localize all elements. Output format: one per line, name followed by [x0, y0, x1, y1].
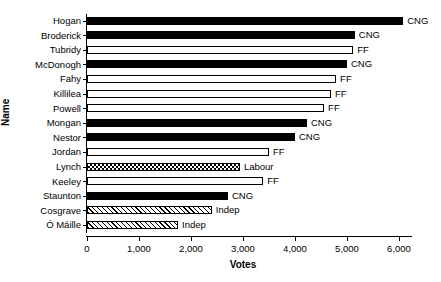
x-axis-tick: [399, 237, 400, 241]
bar-value-label: FF: [267, 175, 279, 186]
bar: [87, 119, 307, 127]
bar-value-label: Indep: [182, 219, 206, 230]
category-label: Fahy: [60, 73, 81, 84]
x-axis-tick-label: 3,000: [231, 243, 255, 254]
bar: [87, 192, 228, 200]
category-label: Keeley: [52, 176, 81, 187]
category-label: Staunton: [43, 190, 81, 201]
bar: [87, 177, 263, 185]
bar: [87, 221, 178, 229]
bar-row: JordanFF: [87, 145, 399, 160]
category-label: McDonogh: [35, 59, 81, 70]
bar-row: MonganCNG: [87, 116, 399, 131]
category-label: Cosgrave: [40, 205, 81, 216]
bar-value-label: FF: [328, 102, 340, 113]
bar-row: McDonoghCNG: [87, 58, 399, 73]
bar: [87, 46, 353, 54]
bar-value-label: CNG: [359, 29, 380, 40]
x-axis-tick-label: 2,000: [179, 243, 203, 254]
plot-area: HoganCNGBroderickCNGTubridyFFMcDonoghCNG…: [87, 14, 399, 233]
category-label: Mongan: [47, 117, 81, 128]
bar-row: KillileaFF: [87, 87, 399, 102]
x-axis-tick: [191, 237, 192, 241]
bar-row: TubridyFF: [87, 43, 399, 58]
bar: [87, 31, 355, 39]
category-label: Ó Máille: [46, 219, 81, 230]
x-axis-tick: [347, 237, 348, 241]
bar-value-label: FF: [340, 73, 352, 84]
bar-chart: Name Votes HoganCNGBroderickCNGTubridyFF…: [0, 0, 441, 282]
category-label: Nestor: [53, 132, 81, 143]
y-axis-title: Name: [0, 104, 11, 126]
x-axis-tick: [243, 237, 244, 241]
category-label: Tubridy: [50, 44, 81, 55]
category-label: Hogan: [53, 15, 81, 26]
bar: [87, 104, 324, 112]
bar-value-label: FF: [335, 88, 347, 99]
bar: [87, 75, 336, 83]
bar-value-label: CNG: [299, 131, 320, 142]
x-axis-tick-label: 6,000: [387, 243, 411, 254]
x-axis-tick: [87, 237, 88, 241]
bar-row: KeeleyFF: [87, 175, 399, 190]
x-axis-line: [86, 236, 412, 237]
x-axis-tick: [295, 237, 296, 241]
x-axis-title: Votes: [87, 259, 399, 270]
bar: [87, 148, 269, 156]
bar-row: CosgraveIndep: [87, 204, 399, 219]
category-label: Jordan: [52, 146, 81, 157]
bar: [87, 163, 240, 171]
bar-value-label: CNG: [351, 58, 372, 69]
category-label: Powell: [53, 103, 81, 114]
bar-row: StauntonCNG: [87, 189, 399, 204]
bar-value-label: FF: [357, 44, 369, 55]
bar-row: HoganCNG: [87, 14, 399, 29]
bar-row: BroderickCNG: [87, 29, 399, 44]
x-axis-tick-label: 4,000: [283, 243, 307, 254]
x-axis-tick: [139, 237, 140, 241]
category-label: Lynch: [56, 161, 81, 172]
bar-value-label: Indep: [216, 204, 240, 215]
bar-row: Ó MáilleIndep: [87, 218, 399, 233]
bar-row: NestorCNG: [87, 131, 399, 146]
bar-value-label: CNG: [311, 117, 332, 128]
category-label: Killilea: [54, 88, 81, 99]
bar-row: PowellFF: [87, 102, 399, 117]
bar-row: FahyFF: [87, 72, 399, 87]
bar-value-label: Labour: [244, 161, 274, 172]
bar: [87, 206, 212, 214]
bar-value-label: CNG: [407, 15, 428, 26]
x-axis-tick-label: 1,000: [127, 243, 151, 254]
bar: [87, 90, 331, 98]
x-axis-tick-label: 0: [84, 243, 89, 254]
bar: [87, 60, 347, 68]
bar-value-label: FF: [273, 146, 285, 157]
x-axis-tick-label: 5,000: [335, 243, 359, 254]
bar-value-label: CNG: [232, 190, 253, 201]
bar: [87, 133, 295, 141]
bar: [87, 17, 403, 25]
category-label: Broderick: [41, 30, 81, 41]
bar-row: LynchLabour: [87, 160, 399, 175]
